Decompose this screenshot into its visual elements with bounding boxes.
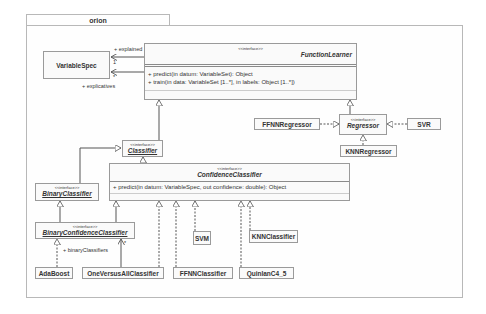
class-name: AdaBoost	[39, 270, 70, 277]
class-knn-regressor[interactable]: KNNRegressor	[340, 145, 397, 157]
class-variable-spec[interactable]: VariableSpec	[43, 51, 110, 79]
class-name: VariableSpec	[56, 62, 96, 69]
class-name: SVR	[417, 121, 430, 128]
class-ada-boost[interactable]: AdaBoost	[35, 267, 73, 279]
method-predict: + predict(in datum: VariableSpec, out co…	[110, 183, 349, 191]
interface-regressor[interactable]: <<interface>> Regressor	[339, 114, 387, 135]
class-quinlan-c4-5[interactable]: QuinlanC4_5	[239, 267, 294, 279]
interface-name: FunctionLearner	[145, 51, 356, 59]
interface-classifier[interactable]: <<interface>> Classifier	[122, 140, 163, 157]
class-name: FFNNClassifier	[180, 270, 227, 277]
multiplicity-binary-classifiers: *	[124, 240, 126, 246]
interface-name: BinaryConfidenceClassifier	[36, 229, 134, 237]
class-name: FFNNRegressor	[262, 121, 311, 128]
method-train: + train(in data: VariableSet [1..*], in …	[145, 78, 356, 86]
interface-confidence-classifier[interactable]: <<interface>> ConfidenceClassifier + pre…	[109, 163, 350, 201]
class-ffnn-regressor[interactable]: FFNNRegressor	[254, 118, 320, 130]
class-ffnn-classifier[interactable]: FFNNClassifier	[173, 267, 233, 279]
class-name: QuinlanC4_5	[247, 270, 287, 277]
class-name: KNNRegressor	[345, 148, 391, 155]
role-explained: + explained	[114, 46, 142, 52]
multiplicity-explicatives: *	[113, 74, 115, 80]
role-binary-classifiers: + binaryClassifiers	[63, 247, 108, 253]
interface-function-learner[interactable]: <<interface>> FunctionLearner + predict(…	[144, 43, 357, 100]
class-svm[interactable]: SVM	[193, 231, 211, 245]
class-name: OneVersusAllClassifier	[87, 270, 159, 277]
class-one-versus-all-classifier[interactable]: OneVersusAllClassifier	[82, 267, 164, 279]
method-predict: + predict(in datum: VariableSet): Object	[145, 70, 356, 78]
interface-name: Classifier	[123, 147, 162, 155]
role-explicatives: + explicatives	[82, 83, 115, 89]
class-knn-classifier[interactable]: KNNClassifier	[249, 230, 298, 243]
class-name: KNNClassifier	[252, 233, 295, 240]
multiplicity-explained: 1	[113, 59, 116, 65]
interface-name: Regressor	[340, 122, 386, 130]
interface-name: BinaryClassifier	[36, 190, 98, 198]
class-name: SVM	[195, 235, 209, 242]
interface-binary-classifier[interactable]: <<interface>> BinaryClassifier	[35, 183, 99, 201]
interface-binary-confidence-classifier[interactable]: <<interface>> BinaryConfidenceClassifier	[35, 222, 135, 239]
interface-name: ConfidenceClassifier	[110, 171, 349, 179]
class-svr[interactable]: SVR	[407, 118, 441, 130]
